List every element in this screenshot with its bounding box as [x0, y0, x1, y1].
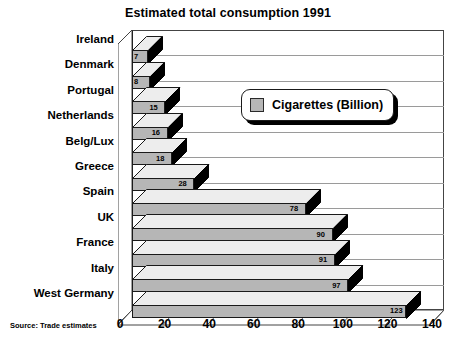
category-label: Greece — [75, 160, 114, 172]
bar: 78 — [132, 189, 320, 216]
bar-value-label: 91 — [319, 256, 327, 264]
bar: 16 — [132, 113, 182, 140]
category-label: Portugal — [67, 84, 114, 96]
bar: 15 — [132, 87, 179, 114]
bar-value-label: 97 — [332, 282, 340, 290]
x-axis: 020406080100120140 — [118, 315, 456, 339]
category-label: Denmark — [65, 58, 114, 70]
bar-value-label: 8 — [134, 78, 138, 86]
category-label: Italy — [91, 262, 114, 274]
category-label: Netherlands — [48, 109, 114, 121]
bar-value-label: 15 — [149, 104, 157, 112]
legend-swatch-icon — [250, 98, 264, 112]
category-axis: IrelandDenmarkPortugalNetherlandsBelg/Lu… — [0, 32, 118, 310]
category-label: Belg/Lux — [65, 135, 114, 147]
chart-container: Estimated total consumption 1991 Ireland… — [0, 0, 456, 356]
gridline — [132, 55, 444, 56]
bar-value-label: 16 — [152, 129, 160, 137]
bar-value-label: 28 — [178, 180, 186, 188]
category-label: Spain — [83, 185, 114, 197]
bar-value-label: 90 — [317, 231, 325, 239]
bar: 7 — [132, 36, 162, 63]
source-note: Source: Trade estimates — [10, 321, 97, 330]
gridline — [132, 81, 444, 82]
chart-legend: Cigarettes (Billion) — [241, 89, 394, 121]
category-label: France — [76, 236, 114, 248]
x-tick-label: 60 — [247, 317, 260, 331]
x-tick-label: 40 — [202, 317, 215, 331]
x-tick-label: 140 — [422, 317, 442, 331]
x-tick-label: 80 — [292, 317, 305, 331]
bar-value-label: 7 — [134, 53, 138, 61]
bar-value-label: 123 — [390, 307, 403, 315]
bar-value-label: 78 — [290, 205, 298, 213]
bar-value-label: 18 — [156, 155, 164, 163]
x-tick-label: 100 — [333, 317, 353, 331]
bar: 18 — [132, 138, 186, 165]
x-tick-label: 0 — [117, 317, 124, 331]
category-label: Ireland — [76, 33, 114, 45]
plot-area: 781516182878909197123 — [118, 30, 446, 315]
bar: 97 — [132, 265, 362, 292]
x-tick-label: 20 — [158, 317, 171, 331]
bar: 90 — [132, 214, 347, 241]
category-label: West Germany — [34, 287, 114, 299]
x-tick-label: 120 — [377, 317, 397, 331]
plot-left-wall — [118, 30, 132, 325]
category-label: UK — [97, 211, 114, 223]
bar: 8 — [132, 62, 164, 89]
legend-label: Cigarettes (Billion) — [272, 98, 383, 112]
bar: 123 — [132, 291, 420, 318]
bar: 28 — [132, 164, 208, 191]
chart-title: Estimated total consumption 1991 — [0, 6, 456, 20]
bar: 91 — [132, 240, 349, 267]
